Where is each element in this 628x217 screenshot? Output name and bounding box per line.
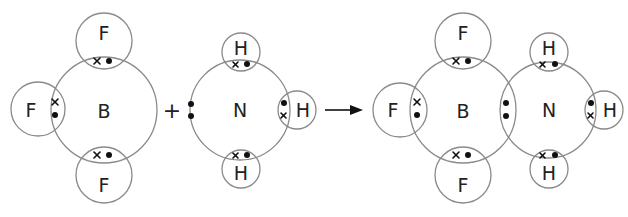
dative-pair-dot-icon [503, 113, 509, 119]
boron-label: B [97, 100, 110, 122]
dot-electron-icon [588, 100, 594, 106]
bf3-molecule: B F F F [11, 13, 157, 203]
fluorine-top-label: F [99, 22, 110, 44]
dot-electron-icon [552, 61, 558, 67]
fluorine-bottom-label: F [99, 174, 110, 196]
cross-electron-icon [94, 152, 100, 158]
cross-electron-icon [453, 152, 459, 158]
dot-electron-icon [281, 100, 287, 106]
dative-pair-dot-icon [503, 100, 509, 106]
cross-electron-icon [52, 99, 58, 105]
product-fluorine-top-label: F [458, 22, 469, 44]
reaction-arrow-icon [325, 105, 363, 115]
product-fluorine-left-label: F [388, 99, 399, 121]
dot-electron-icon [244, 152, 250, 158]
cross-electron-icon [281, 113, 286, 118]
cross-electron-icon [588, 113, 593, 118]
product-hydrogen-right-label: H [603, 99, 617, 121]
dot-and-cross-diagram: B F F F + N H H H [0, 0, 628, 217]
dot-electron-icon [106, 58, 112, 64]
product-fluorine-bottom-label: F [458, 174, 469, 196]
lone-pair-dot-icon [188, 101, 194, 107]
product-hydrogen-bottom-label: H [542, 162, 556, 184]
cross-electron-icon [453, 58, 459, 64]
hydrogen-right-label: H [296, 99, 310, 121]
product-nitrogen-label: N [542, 99, 556, 121]
cross-electron-icon [233, 153, 238, 158]
hydrogen-top-label: H [234, 37, 248, 59]
dot-electron-icon [106, 152, 112, 158]
cross-electron-icon [94, 58, 100, 64]
dot-electron-icon [465, 58, 471, 64]
bf3nh3-adduct: B N F F F H H H [373, 13, 623, 203]
product-hydrogen-top-label: H [542, 37, 556, 59]
hydrogen-bottom-label: H [234, 162, 248, 184]
lone-pair-dot-icon [188, 113, 194, 119]
fluorine-left-label: F [26, 99, 37, 121]
nitrogen-label: N [233, 99, 247, 121]
dot-electron-icon [552, 152, 558, 158]
dot-electron-icon [465, 152, 471, 158]
cross-electron-icon [414, 99, 420, 105]
product-fluorine-left-shell [373, 83, 427, 137]
dot-electron-icon [244, 61, 250, 67]
cross-electron-icon [233, 62, 238, 67]
dot-electron-icon [414, 112, 420, 118]
product-boron-label: B [456, 100, 469, 122]
fluorine-left-shell [11, 82, 65, 136]
nh3-molecule: N H H H [188, 33, 316, 188]
plus-sign: + [163, 98, 181, 123]
dot-electron-icon [52, 112, 58, 118]
